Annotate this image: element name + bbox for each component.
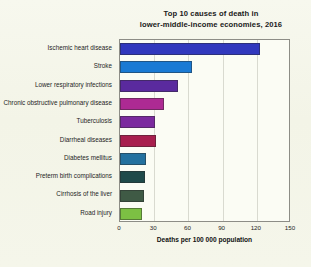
category-label: Chronic obstructive pulmonary disease: [4, 94, 113, 112]
chart-title: Top 10 causes of death in lower-middle-i…: [118, 9, 304, 30]
bar-row[interactable]: [120, 205, 289, 223]
bar[interactable]: [120, 80, 178, 92]
chart-title-line-2: lower-middle-income economies, 2016: [118, 20, 304, 31]
category-label: Stroke: [94, 57, 112, 75]
bar[interactable]: [120, 98, 164, 110]
category-label: Tuberculosis: [77, 112, 112, 130]
bar-row[interactable]: [120, 40, 289, 58]
bar[interactable]: [120, 116, 155, 128]
bar-row[interactable]: [120, 77, 289, 95]
x-tick-label-90: 90: [218, 224, 225, 231]
bar[interactable]: [120, 61, 192, 73]
bar-row[interactable]: [120, 150, 289, 168]
bar-row[interactable]: [120, 132, 289, 150]
category-label: Diabetes mellitus: [64, 149, 112, 167]
plot-area: [119, 39, 290, 222]
bar[interactable]: [120, 171, 145, 183]
chart-page: Top 10 causes of death in lower-middle-i…: [0, 0, 311, 267]
bar-row[interactable]: [120, 113, 289, 131]
bar-row[interactable]: [120, 58, 289, 76]
x-tick-label-30: 30: [150, 224, 157, 231]
bar-row[interactable]: [120, 95, 289, 113]
category-label: Diarrheal diseases: [60, 131, 112, 149]
x-tick-label-120: 120: [251, 224, 261, 231]
x-tick-label-60: 60: [184, 224, 191, 231]
category-label: Cirrhosis of the liver: [56, 185, 112, 203]
bar[interactable]: [120, 153, 146, 165]
bar[interactable]: [120, 190, 144, 202]
x-tick-label-0: 0: [117, 224, 120, 231]
category-label: Road injury: [80, 204, 112, 222]
bar[interactable]: [120, 208, 142, 220]
bars-layer: [120, 40, 289, 221]
chart-title-line-1: Top 10 causes of death in: [118, 9, 304, 20]
bar[interactable]: [120, 43, 260, 55]
bar[interactable]: [120, 135, 156, 147]
x-axis-tick-labels: 0306090120150: [119, 224, 290, 234]
x-tick-label-150: 150: [285, 224, 295, 231]
x-axis-title: Deaths per 100 000 population: [119, 236, 290, 243]
bar-row[interactable]: [120, 168, 289, 186]
y-axis-category-labels: Ischemic heart diseaseStrokeLower respir…: [0, 39, 115, 222]
bar-row[interactable]: [120, 186, 289, 204]
category-label: Lower respiratory infections: [35, 76, 112, 94]
category-label: Ischemic heart disease: [48, 39, 112, 57]
category-label: Preterm birth complications: [36, 167, 112, 185]
